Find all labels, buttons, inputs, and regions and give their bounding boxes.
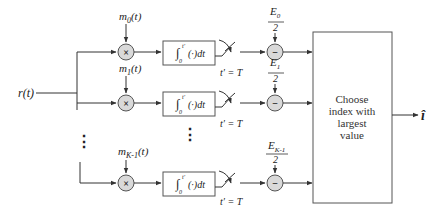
multiply-icon: × bbox=[123, 47, 129, 58]
decision-text-line-4: value bbox=[340, 129, 364, 141]
decision-text-line-3: largest bbox=[337, 117, 366, 129]
svg-text:(·)dt: (·)dt bbox=[188, 48, 205, 60]
sample-label-1: t′ = T bbox=[220, 118, 244, 129]
svg-text:(·)dt: (·)dt bbox=[188, 99, 205, 111]
sample-label-0: t′ = T bbox=[220, 67, 244, 78]
decision-text-line-2: index with bbox=[329, 105, 376, 117]
ellipsis-middle: ⋮ bbox=[182, 126, 198, 143]
svg-text:2: 2 bbox=[273, 22, 278, 33]
reference-label-1: m1(t) bbox=[119, 62, 142, 77]
svg-text:0: 0 bbox=[179, 58, 182, 64]
ellipsis-left: ⋮ bbox=[76, 133, 92, 150]
input-signal-label: r(t) bbox=[18, 86, 34, 100]
svg-text:0: 0 bbox=[179, 189, 182, 195]
branch-1: m1(t) × ∫ t′ 0 (·)dt t′ = T E1 2 − bbox=[77, 56, 312, 129]
minus-icon: − bbox=[272, 98, 278, 109]
reference-label-0: m0(t) bbox=[119, 10, 142, 25]
output-label: î bbox=[421, 108, 426, 123]
branch-k-minus-1: mK-1(t) × ∫ t′ 0 (·)dt t′ = T EK-1 2 − bbox=[80, 139, 312, 207]
svg-text:2: 2 bbox=[273, 73, 278, 84]
bias-label-0: E0 bbox=[269, 5, 281, 20]
svg-text:0: 0 bbox=[179, 109, 182, 115]
multiply-icon: × bbox=[123, 178, 129, 189]
correlator-receiver-diagram: r(t) ⋮ ⋮ m0(t) × ∫ t′ 0 (·)dt t′ = T E0 … bbox=[0, 0, 447, 209]
svg-text:2: 2 bbox=[273, 154, 278, 165]
decision-text-line-1: Choose bbox=[336, 93, 369, 105]
minus-icon: − bbox=[272, 178, 278, 189]
bias-label-k-minus-1: EK-1 bbox=[267, 139, 285, 154]
reference-label-k-minus-1: mK-1(t) bbox=[118, 145, 149, 160]
svg-text:(·)dt: (·)dt bbox=[188, 179, 205, 191]
multiply-icon: × bbox=[123, 98, 129, 109]
sample-label-k-minus-1: t′ = T bbox=[220, 196, 244, 207]
